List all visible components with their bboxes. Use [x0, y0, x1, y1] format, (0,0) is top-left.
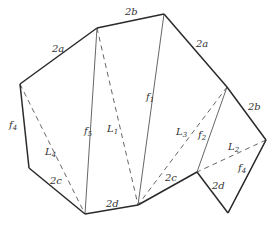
label-2a: 2a [51, 43, 64, 54]
label-2b: 2b [124, 6, 138, 17]
label-f4: f4 [237, 162, 246, 175]
label-2c: 2c [49, 175, 62, 186]
label-f5: f5 [83, 125, 93, 138]
crease-line-BP [85, 28, 97, 214]
label-L2: L2 [227, 141, 240, 154]
label-2d: 2d [105, 198, 119, 209]
label-f2: f2 [197, 129, 207, 142]
edge-JA [20, 84, 29, 168]
label-2c: 2c [164, 172, 177, 183]
label-L4: L4 [44, 146, 56, 159]
label-L1: L1 [106, 123, 118, 136]
label-L3: L3 [175, 126, 188, 139]
fold-diagram: 2a2b2a2bf4L42c2df5L1f1L3f22cL2f42d [0, 0, 274, 230]
label-f4: f4 [8, 119, 17, 132]
edge-FG [197, 172, 228, 213]
label-2b: 2b [247, 101, 261, 112]
diagram-canvas: 2a2b2a2bf4L42c2df5L1f1L3f22cL2f42d [0, 0, 274, 230]
edge-DE [227, 87, 266, 140]
fold-line-BH [97, 28, 138, 205]
label-f1: f1 [145, 91, 154, 104]
edge-CD [164, 14, 227, 87]
label-2a: 2a [195, 38, 208, 49]
fold-line-AP [20, 84, 85, 214]
label-2d: 2d [211, 180, 225, 191]
edge-AB [20, 28, 97, 84]
